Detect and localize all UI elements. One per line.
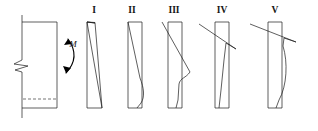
diagram-III-outline	[168, 22, 182, 108]
stress-diagram-IV: IV	[199, 5, 236, 108]
diagram-label-IV: IV	[217, 5, 228, 15]
stress-diagram-I: I	[87, 5, 102, 108]
stress-diagram-III: III	[162, 5, 190, 108]
diagram-IV-outline	[215, 22, 229, 108]
stress-diagram-V: V	[250, 5, 296, 108]
diagram-III-profile	[162, 22, 190, 108]
figure-canvas: M I II III IV V	[0, 0, 318, 131]
diagram-label-II: II	[128, 5, 136, 15]
member-cross-section	[14, 15, 57, 118]
moment-arrowhead-bottom	[63, 66, 71, 73]
diagram-IV-profile	[199, 24, 236, 108]
moment-label: M	[68, 39, 77, 49]
diagram-V-outline	[268, 22, 282, 108]
section-outline	[22, 22, 57, 108]
break-symbol	[14, 60, 28, 72]
stress-distribution-figure: M I II III IV V	[0, 0, 318, 131]
diagram-label-V: V	[272, 5, 279, 15]
diagram-label-III: III	[168, 5, 179, 15]
diagram-II-profile	[128, 22, 144, 108]
moment-symbol: M	[63, 39, 77, 73]
diagram-label-I: I	[92, 5, 96, 15]
diagram-V-profile	[250, 24, 296, 108]
diagram-I-diagonal	[87, 22, 102, 108]
stress-diagram-II: II	[128, 5, 144, 108]
diagram-II-outline	[128, 22, 142, 108]
